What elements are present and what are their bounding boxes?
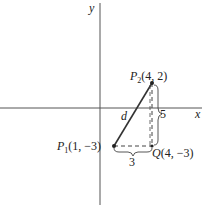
vertical-leg-label: 5 [160,107,166,121]
p1-label: P1(1, −3) [56,139,101,155]
segment-d [114,83,152,146]
point-p1 [112,144,116,148]
distance-diagram: y x P2(4, 2) P1(1, −3) Q(4, −3) d 5 3 [0,0,206,213]
p2-label: P2(4, 2) [129,69,167,85]
x-axis-label: x [194,107,201,121]
q-label: Q(4, −3) [152,146,193,160]
horizontal-leg-label: 3 [129,155,135,169]
y-axis-label: y [88,1,95,15]
segment-d-label: d [121,109,128,123]
